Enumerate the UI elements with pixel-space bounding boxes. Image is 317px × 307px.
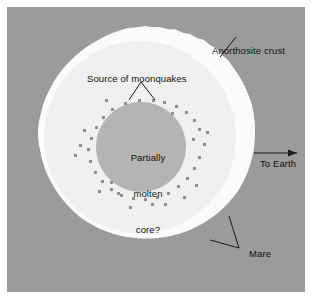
label-core-line-3: core? <box>115 224 181 236</box>
label-core-line-2: molten <box>115 188 181 200</box>
label-molten-core: Partially molten core? <box>115 128 181 260</box>
figure-root: Anorthosite crust Source of moonquakes P… <box>0 0 317 307</box>
to-earth-arrow <box>254 150 297 157</box>
label-mare: Mare <box>249 248 271 259</box>
label-to-earth: To Earth <box>260 158 296 169</box>
label-source-of-moonquakes: Source of moonquakes <box>87 73 187 84</box>
diagram-panel: Anorthosite crust Source of moonquakes P… <box>7 7 305 292</box>
label-anorthosite-crust: Anorthosite crust <box>212 45 285 56</box>
label-core-line-1: Partially <box>115 152 181 164</box>
mare-leader-lines <box>210 216 239 248</box>
